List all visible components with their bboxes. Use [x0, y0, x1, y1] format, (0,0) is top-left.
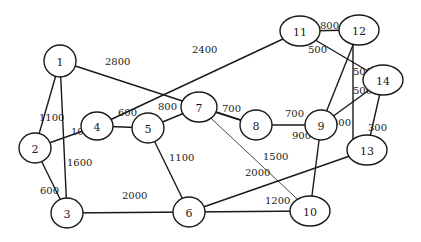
node-1: 1	[44, 45, 76, 77]
edge-weight-label: 700	[285, 108, 304, 119]
node-label: 3	[64, 208, 71, 221]
node-3: 3	[51, 198, 83, 228]
network-graph: 1100160028006001000600240080011007001500…	[0, 0, 421, 242]
edge-weight-label: 2400	[192, 44, 217, 55]
node-2: 2	[19, 133, 51, 163]
edge-weight-label: 800	[158, 101, 177, 112]
edge-weight-label: 2800	[105, 56, 130, 67]
node-8: 8	[240, 110, 272, 140]
node-9: 9	[305, 110, 337, 140]
node-label: 8	[253, 120, 260, 133]
node-13: 13	[347, 135, 387, 165]
edge-weight-label: 1600	[67, 157, 92, 168]
edge-weight-label: 1100	[169, 152, 194, 163]
node-label: 4	[94, 121, 101, 134]
edge-weight-label: 600	[118, 107, 137, 118]
edge-weight-label: 600	[40, 185, 59, 196]
edge-3-6	[67, 212, 189, 213]
node-label: 14	[376, 75, 390, 88]
node-label: 11	[293, 26, 307, 39]
edge-weight-label: 2000	[122, 190, 147, 201]
node-label: 7	[196, 102, 203, 115]
node-7: 7	[181, 92, 217, 122]
node-label: 13	[360, 145, 374, 158]
node-12: 12	[339, 15, 379, 45]
edge-weight-label: 1200	[265, 195, 290, 206]
edge-weight-label: 2000	[245, 167, 270, 178]
node-label: 6	[186, 207, 193, 220]
edge-weight-label: 800	[320, 20, 339, 31]
node-label: 12	[352, 25, 366, 38]
node-10: 10	[290, 196, 330, 226]
node-14: 14	[363, 65, 403, 95]
node-label: 10	[303, 206, 317, 219]
node-label: 9	[318, 120, 325, 133]
node-5: 5	[132, 113, 164, 143]
node-label: 1	[57, 56, 64, 69]
edge-weight-label: 1500	[263, 151, 288, 162]
edge-weight-label: 700	[222, 103, 241, 114]
node-label: 2	[32, 143, 39, 156]
edge-weight-label: 500	[308, 44, 327, 55]
node-label: 5	[145, 123, 152, 136]
node-6: 6	[173, 197, 205, 227]
node-11: 11	[280, 16, 320, 46]
edge-weight-label: 1100	[39, 112, 64, 123]
edge-weight-label: 300	[368, 122, 387, 133]
node-4: 4	[81, 112, 113, 140]
